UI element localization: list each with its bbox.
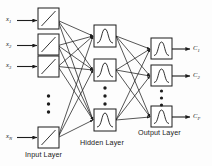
ellipsis-output	[160, 89, 163, 106]
caption-input-layer: Input Layer	[25, 150, 62, 159]
output-arrows-group	[172, 49, 190, 117]
input-nodes-group	[38, 8, 59, 148]
caption-output-layer: Output Layer	[138, 128, 181, 137]
input-label-1: x1	[6, 15, 11, 24]
input-arrows-group	[17, 21, 37, 138]
neural-network-diagram: x1 x2 x3 xN C1 C2 CP Input Layer Hidden …	[0, 0, 212, 166]
output-node-1	[151, 38, 172, 59]
output-label-2: C2	[193, 71, 200, 80]
output-label-1: C1	[193, 44, 200, 53]
input-node-1	[38, 8, 59, 29]
hidden-node-2	[94, 59, 116, 81]
input-node-2	[38, 34, 59, 55]
input-node-3	[38, 56, 59, 77]
input-to-hidden-edges	[58, 21, 93, 138]
input-label-3: x3	[6, 61, 11, 70]
input-label-2: x2	[6, 40, 11, 49]
input-label-N: xN	[6, 132, 12, 141]
ellipsis-hidden	[103, 86, 106, 105]
hidden-nodes-group	[94, 25, 116, 131]
output-node-P	[151, 106, 172, 127]
hidden-to-output-edges	[116, 36, 150, 120]
output-nodes-group	[151, 38, 172, 127]
hidden-node-1	[94, 25, 116, 47]
input-node-N	[38, 127, 59, 148]
hidden-node-M	[94, 109, 116, 131]
output-node-2	[151, 65, 172, 86]
ellipsis-input	[47, 94, 50, 113]
output-label-P: CP	[193, 112, 200, 121]
caption-hidden-layer: Hidden Layer	[80, 138, 124, 147]
